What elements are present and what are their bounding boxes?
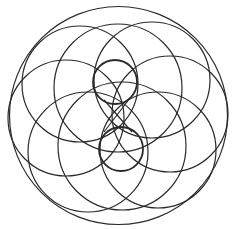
background	[0, 0, 237, 229]
rosette-figure	[0, 0, 237, 229]
rosette-canvas	[0, 0, 237, 229]
